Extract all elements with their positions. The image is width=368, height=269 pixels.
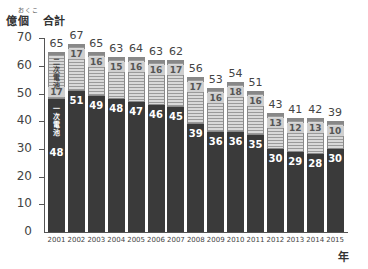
bar-2015: 1030	[327, 121, 344, 232]
segment-secondary-cap	[287, 118, 304, 121]
primary-value-label: 29	[287, 156, 304, 167]
x-axis-unit-label: 年	[338, 248, 349, 264]
y-tick-label: 0	[2, 224, 32, 238]
segment-secondary-cap	[108, 57, 125, 60]
secondary-value-label: 13	[267, 118, 284, 128]
total-value-label: 39	[320, 106, 350, 119]
total-value-label: 51	[241, 76, 271, 89]
y-unit-label: 億個	[6, 12, 30, 28]
bar-2013: 1229	[287, 118, 304, 232]
segment-secondary-cap	[327, 121, 344, 124]
y-tick-label: 10	[2, 196, 32, 210]
y-tick-label: 20	[2, 169, 32, 183]
segment-secondary-cap	[148, 60, 165, 63]
primary-value-label: 36	[207, 136, 224, 147]
secondary-value-label: 13	[307, 123, 324, 133]
segment-primary	[68, 91, 85, 232]
secondary-value-label: 16	[128, 62, 145, 72]
y-tick-label: 30	[2, 141, 32, 155]
bar-2002: 1751	[68, 44, 85, 232]
secondary-series-label: 二次電池	[48, 58, 65, 90]
segment-primary	[167, 107, 184, 232]
primary-value-label: 28	[307, 158, 324, 169]
primary-value-label: 39	[187, 128, 204, 139]
primary-value-label: 35	[247, 139, 264, 150]
secondary-value-label: 17	[68, 49, 85, 59]
y-tick	[39, 177, 44, 178]
secondary-value-label: 18	[227, 87, 244, 97]
segment-secondary-cap	[48, 52, 65, 55]
bar-2014: 1328	[307, 118, 324, 232]
primary-value-label: 48	[108, 103, 125, 114]
bar-2005: 1647	[128, 57, 145, 232]
secondary-value-label: 16	[148, 65, 165, 75]
segment-primary	[187, 124, 204, 232]
primary-value-label: 36	[227, 136, 244, 147]
primary-value-label: 51	[68, 95, 85, 106]
primary-value-label: 30	[327, 153, 344, 164]
secondary-value-label: 10	[327, 126, 344, 136]
total-value-label: 62	[161, 45, 191, 58]
segment-primary	[88, 96, 105, 232]
y-tick	[39, 204, 44, 205]
y-tick-label: 70	[2, 30, 32, 44]
y-tick	[39, 149, 44, 150]
secondary-value-label: 15	[108, 62, 125, 72]
segment-primary	[108, 99, 125, 232]
segment-primary	[128, 102, 145, 232]
primary-series-label: 一次電池	[48, 105, 65, 137]
bar-2008: 1739	[187, 77, 204, 232]
x-axis	[44, 232, 348, 233]
bar-2011: 1635	[247, 91, 264, 232]
primary-value-label: 49	[88, 100, 105, 111]
secondary-value-label: 16	[88, 57, 105, 67]
y-tick-label: 50	[2, 86, 32, 100]
primary-value-label: 30	[267, 153, 284, 164]
y-tick	[39, 121, 44, 122]
primary-value-label: 45	[167, 111, 184, 122]
segment-primary	[148, 105, 165, 232]
bar-2001: 1748二次電池一次電池	[48, 52, 65, 232]
bar-2004: 1548	[108, 57, 125, 232]
y-tick	[39, 94, 44, 95]
total-label: 合計	[43, 12, 65, 28]
bar-2010: 1836	[227, 82, 244, 232]
segment-secondary-cap	[247, 91, 264, 94]
bar-2003: 1649	[88, 52, 105, 232]
y-tick-label: 60	[2, 58, 32, 72]
primary-value-label: 46	[148, 109, 165, 120]
y-tick-label: 40	[2, 113, 32, 127]
primary-value-label: 48	[48, 147, 65, 158]
secondary-value-label: 16	[207, 93, 224, 103]
primary-value-label: 47	[128, 106, 145, 117]
bar-2009: 1636	[207, 88, 224, 232]
y-tick	[39, 66, 44, 67]
x-tick-label: 2015	[323, 236, 347, 244]
bar-2006: 1646	[148, 60, 165, 232]
y-axis	[44, 38, 45, 232]
bar-2012: 1330	[267, 113, 284, 232]
bar-2007: 1745	[167, 60, 184, 232]
secondary-value-label: 12	[287, 123, 304, 133]
segment-secondary-cap	[207, 88, 224, 91]
